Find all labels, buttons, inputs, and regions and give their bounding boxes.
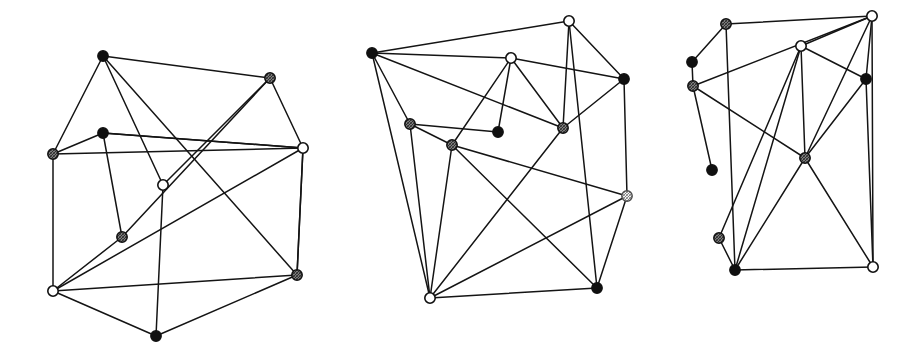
graph-node-gray	[117, 232, 127, 242]
graph-node-gray	[688, 81, 698, 91]
graph-node-black	[98, 51, 108, 61]
graph-node-black	[687, 57, 697, 67]
graph-node-white	[298, 143, 308, 153]
graph-figure-svg	[0, 0, 915, 349]
graph-node-gray	[558, 123, 568, 133]
graph-node-black	[98, 128, 108, 138]
graph-node-gray	[48, 149, 58, 159]
graph-node-white	[868, 262, 878, 272]
graph-node-gray	[721, 19, 731, 29]
graph-node-white	[564, 16, 574, 26]
graph-node-light	[622, 191, 632, 201]
graph-node-black	[592, 283, 602, 293]
graph-node-black	[619, 74, 629, 84]
graph-node-white	[867, 11, 877, 21]
graph-node-gray	[714, 233, 724, 243]
graph-node-gray	[292, 270, 302, 280]
graph-node-gray	[447, 140, 457, 150]
graph-node-gray	[800, 153, 810, 163]
graph-node-black	[367, 48, 377, 58]
figure-root	[0, 0, 915, 349]
graph-node-gray	[405, 119, 415, 129]
graph-node-black	[151, 331, 161, 341]
graph-node-white	[425, 293, 435, 303]
graph-node-black	[861, 74, 871, 84]
graph-node-gray	[265, 73, 275, 83]
graph-node-white	[506, 53, 516, 63]
graph-node-black	[707, 165, 717, 175]
graph-node-white	[796, 41, 806, 51]
graph-node-black	[493, 127, 503, 137]
graph-node-white	[158, 180, 168, 190]
graph-node-black	[730, 265, 740, 275]
graph-node-white	[48, 286, 58, 296]
